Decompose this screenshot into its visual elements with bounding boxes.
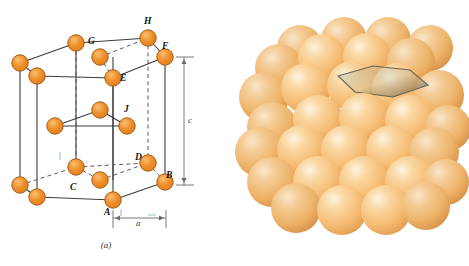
bottom-layer-atoms — [12, 155, 173, 208]
panel-a-unit-cell: H G F E J D C B A c a (a) — [0, 0, 235, 266]
prism-hidden-vertical-edges — [76, 38, 148, 167]
dimension-label-a: a — [136, 218, 141, 228]
atom-label-E: E — [120, 73, 126, 83]
unit-cell-svg — [0, 0, 235, 266]
middle-layer-atoms — [47, 102, 135, 134]
hcp-crystal-structure-figure: H G F E J D C B A c a (a) — [0, 0, 469, 266]
atom-label-D: D — [135, 152, 142, 162]
atom-label-J: J — [124, 104, 129, 114]
panel-a-caption: (a) — [86, 240, 126, 250]
atom-label-C: C — [70, 182, 76, 192]
panel-b-hard-sphere-model: (b) — [234, 0, 469, 266]
atom-label-H: H — [144, 16, 151, 26]
atom-label-G: G — [88, 36, 95, 46]
atom-label-F: F — [162, 41, 168, 51]
dimension-label-c: c — [188, 115, 192, 125]
midplane-edges — [55, 110, 127, 126]
atom-label-B: B — [166, 170, 172, 180]
hard-sphere-svg — [234, 0, 469, 266]
atom-label-A: A — [104, 207, 110, 217]
